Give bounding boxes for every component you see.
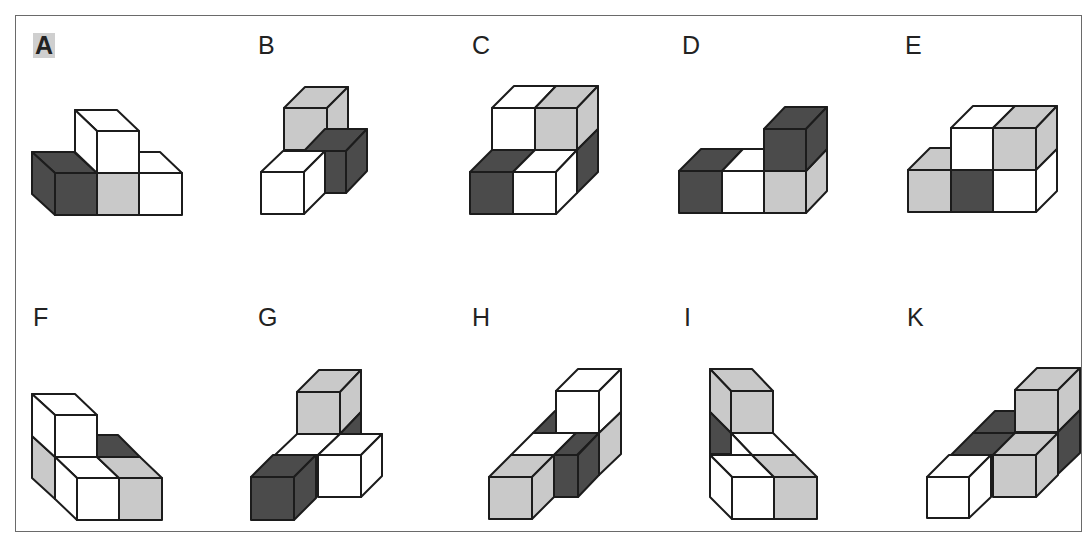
cube-face-dark bbox=[973, 411, 1015, 433]
cube-figure-k bbox=[927, 368, 1080, 518]
cube-face-white bbox=[261, 172, 304, 214]
cube-figure-c bbox=[470, 86, 598, 214]
figure-label-k: K bbox=[907, 305, 924, 330]
cube-figure-g bbox=[251, 370, 382, 520]
cube-figure-f bbox=[32, 394, 162, 520]
cube-face-gray bbox=[764, 171, 806, 213]
cube-face-white bbox=[55, 415, 97, 457]
cube-face-dark bbox=[55, 173, 97, 215]
cube-face-white bbox=[927, 477, 969, 518]
cube-figure-a bbox=[32, 110, 182, 215]
cube-face-dark bbox=[951, 170, 993, 212]
cube-face-gray bbox=[993, 455, 1036, 497]
figure-label-a: A bbox=[33, 33, 55, 58]
cube-face-white bbox=[492, 108, 535, 150]
cube-figure-h bbox=[489, 369, 621, 519]
cube-figure-d bbox=[679, 107, 827, 213]
cube-figure-i bbox=[710, 369, 817, 519]
figure-label-g: G bbox=[258, 305, 277, 330]
cube-face-white bbox=[513, 172, 556, 214]
figure-label-f: F bbox=[33, 305, 48, 330]
cube-face-gray bbox=[97, 173, 139, 215]
figure-label-e: E bbox=[905, 33, 922, 58]
cube-face-gray bbox=[535, 108, 577, 150]
cube-face-dark bbox=[97, 435, 140, 457]
cube-face-gray bbox=[1015, 390, 1058, 432]
cube-face-white bbox=[951, 128, 993, 170]
cube-face-white bbox=[556, 391, 599, 433]
cube-face-white bbox=[732, 477, 774, 519]
cube-face-dark bbox=[679, 171, 722, 213]
cube-face-gray bbox=[119, 478, 162, 520]
cube-face-dark bbox=[764, 129, 806, 171]
cube-face-dark bbox=[470, 172, 513, 214]
cube-face-gray bbox=[489, 477, 532, 519]
cube-face-gray bbox=[908, 170, 951, 212]
figure-label-c: C bbox=[472, 33, 490, 58]
cube-face-white bbox=[993, 170, 1036, 212]
cube-face-white bbox=[77, 478, 119, 520]
cube-face-gray bbox=[731, 391, 773, 433]
cube-face-gray bbox=[908, 148, 951, 170]
cube-figure-b bbox=[261, 87, 367, 214]
figure-label-h: H bbox=[472, 305, 490, 330]
cube-face-gray bbox=[774, 477, 817, 519]
cube-figure-e bbox=[908, 106, 1057, 212]
cube-face-dark bbox=[251, 477, 294, 520]
cube-face-white bbox=[97, 131, 139, 173]
figure-label-b: B bbox=[258, 33, 275, 58]
figure-label-d: D bbox=[682, 33, 700, 58]
cube-face-white bbox=[139, 173, 182, 215]
cube-figures-canvas bbox=[0, 0, 1091, 546]
cube-face-white bbox=[722, 171, 764, 213]
cube-face-gray bbox=[993, 128, 1036, 170]
cube-face-gray bbox=[297, 392, 340, 434]
figure-label-i: I bbox=[684, 305, 691, 330]
cube-face-dark bbox=[533, 411, 558, 433]
cube-face-white bbox=[318, 455, 361, 497]
